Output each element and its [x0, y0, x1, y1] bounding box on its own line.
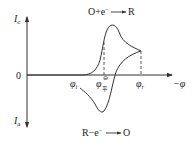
origin-label: 0: [16, 70, 21, 81]
phi-initial-label: φi: [70, 78, 78, 90]
x-axis-label: −φ: [173, 78, 186, 89]
y-top-label: Ic: [13, 13, 20, 26]
cathodic-reaction-product: R: [128, 6, 135, 17]
phi-equilibrium-sub: 平: [102, 86, 108, 93]
cathodic-curve: [27, 25, 141, 75]
y-bottom-label: Ia: [13, 115, 21, 128]
phi-equilibrium-sup: ⊖: [103, 75, 108, 81]
anodic-reaction-label: R−e−: [82, 127, 103, 138]
phi-reversal-label: φr: [136, 78, 145, 90]
cyclic-voltammogram-diagram: Ic Ia 0 −φ φi φ ⊖ 平 φr O+e− R R−e− O: [0, 0, 196, 145]
anodic-reaction-product: O: [123, 127, 130, 138]
cathodic-reaction-label: O+e−: [88, 6, 109, 17]
anodic-curve: [80, 51, 141, 112]
